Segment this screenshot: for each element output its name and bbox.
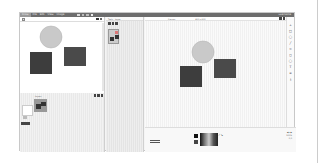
zoom-in-icon[interactable] bbox=[283, 17, 286, 20]
preview-scrollbar[interactable] bbox=[102, 23, 104, 91]
preview-square-left bbox=[30, 52, 52, 74]
tool-ellipse[interactable]: ◯ bbox=[289, 35, 292, 39]
preview-toolbar bbox=[20, 17, 104, 22]
main-canvas-area: Canvas 800 x 600 bbox=[145, 17, 288, 127]
thumb-tools bbox=[21, 122, 30, 125]
canvas-size: 800 x 600 bbox=[195, 18, 205, 20]
preview-square-right bbox=[64, 47, 86, 66]
zoom-info: ◀ ▸ ▶ 100% 0,0 bbox=[286, 131, 292, 140]
tool-line[interactable]: ╱ bbox=[290, 41, 292, 45]
color-palette[interactable] bbox=[200, 133, 218, 146]
delete-layer-icon[interactable] bbox=[101, 94, 104, 97]
add-layer-icon[interactable] bbox=[94, 94, 97, 97]
tool-curve[interactable]: ⊂ bbox=[289, 47, 292, 51]
fill-icon[interactable] bbox=[115, 22, 118, 25]
drawing-canvas[interactable] bbox=[145, 21, 280, 127]
title-icons bbox=[77, 14, 93, 17]
eraser-icon[interactable] bbox=[112, 22, 115, 25]
layers-bar: Layers bbox=[20, 93, 104, 98]
tool-align[interactable]: ≡ bbox=[289, 71, 292, 75]
tool-row bbox=[106, 21, 143, 26]
layers-label: Layers bbox=[35, 95, 42, 97]
brush-icon[interactable] bbox=[108, 22, 111, 25]
layers-panel: Layers bbox=[20, 93, 104, 152]
tool-square[interactable]: ◻ bbox=[289, 53, 292, 57]
bottom-bar: ⁄ ↘ ◀ ▸ ▶ 100% 0,0 bbox=[145, 127, 296, 152]
preview-close-icon[interactable] bbox=[100, 18, 103, 21]
background-thumbnail[interactable] bbox=[22, 105, 33, 116]
foreground-color-swatch[interactable] bbox=[194, 134, 198, 138]
preview-canvas[interactable] bbox=[20, 23, 104, 91]
undo-icon[interactable] bbox=[82, 14, 85, 17]
pen-icon[interactable] bbox=[97, 94, 100, 97]
cursor-position: 0,0 bbox=[286, 137, 292, 140]
preview-panel: Layers bbox=[20, 17, 105, 152]
settings-icon[interactable] bbox=[91, 14, 94, 17]
tool-circle[interactable]: ◯ bbox=[289, 59, 292, 63]
right-toolbar: + □ ◯ ╱ ⊂ ◻ ◯ T ≡ ⤓ bbox=[286, 17, 294, 127]
tool-text[interactable]: T bbox=[290, 65, 292, 69]
palette-tools: ⁄ ↘ bbox=[219, 133, 223, 137]
preview-circle bbox=[40, 26, 62, 48]
background-color-swatch[interactable] bbox=[194, 140, 198, 144]
active-layer-thumbnail[interactable] bbox=[108, 29, 119, 44]
canvas-square-left[interactable] bbox=[180, 66, 202, 87]
tool-panel: Tools Layer bbox=[106, 17, 144, 152]
zoom-out-icon[interactable] bbox=[279, 17, 282, 20]
layer-thumbnail[interactable] bbox=[34, 99, 47, 112]
canvas-circle[interactable] bbox=[192, 41, 214, 63]
redo-icon[interactable] bbox=[86, 14, 89, 17]
drawing-app-window: Draw File Edit View Image username bbox=[19, 12, 295, 151]
save-icon[interactable] bbox=[77, 14, 80, 17]
window-edge-divider bbox=[317, 0, 318, 163]
tab-tools[interactable]: Tools bbox=[108, 18, 113, 20]
canvas-square-right[interactable] bbox=[214, 59, 236, 78]
tool-add[interactable]: + bbox=[289, 23, 292, 27]
canvas-label: Canvas bbox=[168, 18, 175, 20]
tool-export[interactable]: ⤓ bbox=[290, 77, 291, 81]
preview-option-icon[interactable] bbox=[96, 18, 99, 21]
merge-icon[interactable] bbox=[27, 122, 30, 125]
tool-rect[interactable]: □ bbox=[289, 29, 292, 33]
thumb-label bbox=[23, 116, 27, 119]
expand-icon[interactable] bbox=[22, 18, 25, 21]
swap-icon[interactable]: ↘ bbox=[220, 133, 223, 137]
stroke-width-selector[interactable] bbox=[150, 140, 160, 144]
tab-layer[interactable]: Layer bbox=[115, 18, 121, 20]
